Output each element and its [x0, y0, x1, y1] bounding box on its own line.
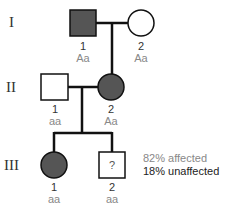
- individual-I-2-unaffected-female: [128, 10, 154, 36]
- individual-III-1-number: 1: [51, 181, 57, 193]
- annotation-affected: 82% affected: [143, 152, 207, 164]
- individual-I-1-affected-male: [70, 10, 96, 36]
- question-mark-icon: ?: [109, 159, 115, 171]
- individual-I-1-number: 1: [80, 40, 86, 52]
- individual-II-1-number: 1: [52, 103, 58, 115]
- individual-II-2-number: 2: [108, 103, 114, 115]
- generation-label-III: III: [4, 157, 19, 173]
- individual-I-2-number: 2: [138, 40, 144, 52]
- generation-label-II: II: [6, 79, 16, 95]
- individual-II-2-genotype: Aa: [104, 115, 118, 127]
- annotation-unaffected: 18% unaffected: [143, 165, 219, 177]
- individual-II-2-affected-female: [98, 74, 124, 100]
- generation-label-I: I: [9, 14, 14, 30]
- individual-III-1-genotype: aa: [48, 193, 61, 205]
- individual-II-1-unaffected-male: [41, 74, 68, 100]
- individual-III-1-affected-female: [41, 152, 67, 178]
- pedigree-diagram: I II III 1 Aa 2 Aa 1 aa 2 Aa 1 aa ? 2 aa…: [0, 0, 230, 208]
- individual-II-1-genotype: aa: [49, 115, 62, 127]
- individual-I-1-genotype: Aa: [76, 52, 90, 64]
- individual-I-2-genotype: Aa: [134, 52, 148, 64]
- individual-III-2-genotype: aa: [106, 193, 119, 205]
- individual-III-2-number: 2: [109, 181, 115, 193]
